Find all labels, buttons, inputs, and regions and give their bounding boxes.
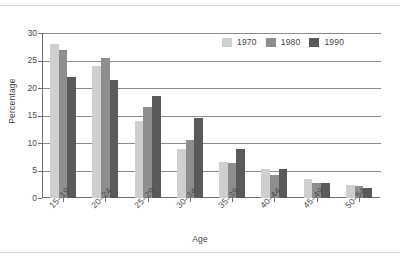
bar-chart-figure: Percentage 051015202530 15–1920–2425–293… — [0, 0, 400, 260]
y-axis-tick-label: 25 — [20, 56, 37, 65]
bar — [92, 66, 101, 198]
bar — [143, 107, 152, 198]
legend-item: 1980 — [266, 38, 301, 47]
scan-edge-bottom — [0, 252, 400, 253]
y-axis-tick-label: 20 — [20, 84, 37, 93]
bar — [59, 50, 68, 199]
legend-swatch-icon — [222, 38, 232, 47]
y-axis-title: Percentage — [7, 61, 17, 141]
y-axis-tick-label: 5 — [20, 166, 37, 175]
bar — [110, 80, 119, 198]
legend: 197019801990 — [222, 38, 344, 47]
legend-label: 1970 — [237, 38, 257, 47]
y-axis-tick-label: 0 — [20, 194, 37, 203]
bar — [101, 58, 110, 198]
legend-label: 1980 — [281, 38, 301, 47]
scan-edge-top — [0, 5, 400, 6]
bar — [135, 121, 144, 198]
bar — [152, 96, 161, 198]
bar — [177, 149, 186, 199]
legend-swatch-icon — [266, 38, 276, 47]
y-axis-tick-label: 15 — [20, 111, 37, 120]
x-axis-title: Age — [0, 234, 400, 244]
legend-swatch-icon — [309, 38, 319, 47]
bar — [194, 118, 203, 198]
bars-group — [42, 33, 380, 198]
bar — [50, 44, 59, 198]
y-axis-tick-label: 30 — [20, 29, 37, 38]
legend-label: 1990 — [324, 38, 344, 47]
bar — [67, 77, 76, 198]
legend-item: 1990 — [309, 38, 344, 47]
y-axis-tick-mark — [38, 198, 42, 199]
y-axis-tick-label: 10 — [20, 139, 37, 148]
legend-item: 1970 — [222, 38, 257, 47]
